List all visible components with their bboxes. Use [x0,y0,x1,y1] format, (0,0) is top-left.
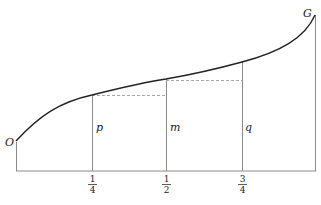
diagram-canvas: O G p m q 1 4 1 2 3 4 [0,0,321,205]
tick-three-quarters: 3 4 [238,174,247,195]
tick-half-denominator: 2 [164,185,170,195]
tick-half: 1 2 [162,174,171,195]
ordinate-m-label: m [170,121,180,134]
curve-og [16,15,315,141]
tick-quarter-denominator: 4 [90,185,96,195]
ordinate-q-label: q [245,121,252,134]
end-label: G [303,7,312,20]
tick-quarter-numerator: 1 [90,174,96,184]
tick-half-numerator: 1 [164,174,170,184]
origin-label: O [5,136,14,149]
tick-three-quarters-denominator: 4 [240,185,246,195]
tick-quarter: 1 4 [88,174,97,195]
tick-three-quarters-numerator: 3 [240,174,246,184]
ordinate-p-label: p [96,121,103,134]
